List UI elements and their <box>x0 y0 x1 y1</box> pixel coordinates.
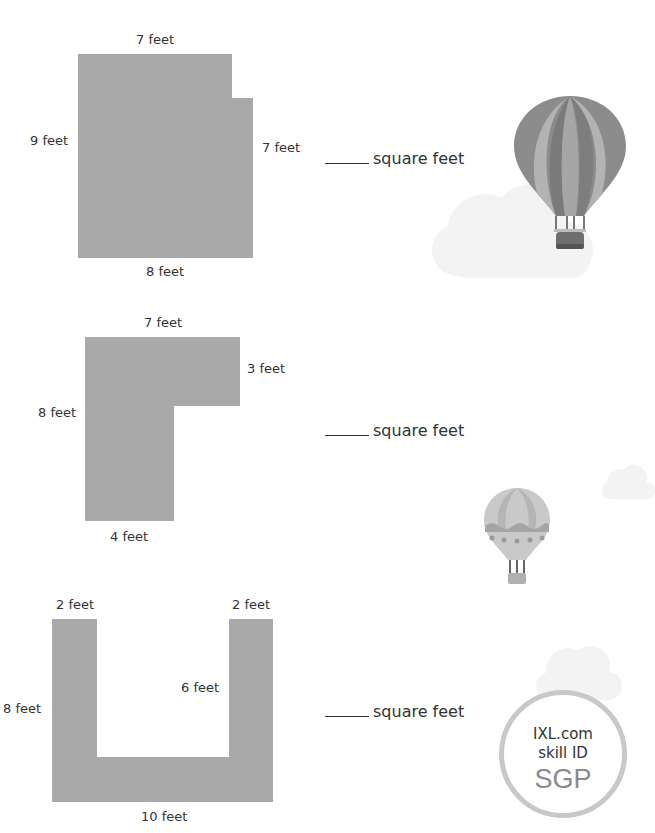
left-dimension-label: 8 feet <box>3 701 41 717</box>
badge-skill-code: SGP <box>504 763 622 795</box>
answer-field: square feet <box>325 149 464 169</box>
answer-unit: square feet <box>373 421 464 440</box>
answer-blank[interactable] <box>325 421 369 436</box>
answer-field: square feet <box>325 702 464 722</box>
badge-site: IXL.com <box>504 725 622 744</box>
answer-blank[interactable] <box>325 702 369 717</box>
bottom-dimension-label: 8 feet <box>146 264 184 280</box>
right-dimension-label: 7 feet <box>262 140 300 156</box>
top-dimension-label: 7 feet <box>136 32 174 48</box>
answer-field: square feet <box>325 421 464 441</box>
bottom-dimension-label: 10 feet <box>141 809 187 825</box>
skill-id-badge: IXL.com skill ID SGP <box>499 690 627 818</box>
answer-unit: square feet <box>373 702 464 721</box>
left-dimension-label: 8 feet <box>38 405 76 421</box>
answer-unit: square feet <box>373 149 464 168</box>
top-dimension-label: 7 feet <box>144 315 182 331</box>
hot-air-balloon-small-icon <box>482 486 552 586</box>
answer-blank[interactable] <box>325 149 369 164</box>
cloud-small-icon <box>598 462 655 502</box>
top-left-dimension-label: 2 feet <box>56 597 94 613</box>
bottom-dimension-label: 4 feet <box>110 529 148 545</box>
inner-dimension-label: 6 feet <box>181 680 219 696</box>
left-dimension-label: 9 feet <box>30 133 68 149</box>
right-dimension-label: 3 feet <box>247 361 285 377</box>
hot-air-balloon-icon <box>510 94 630 252</box>
badge-label: skill ID <box>504 744 622 763</box>
top-right-dimension-label: 2 feet <box>232 597 270 613</box>
